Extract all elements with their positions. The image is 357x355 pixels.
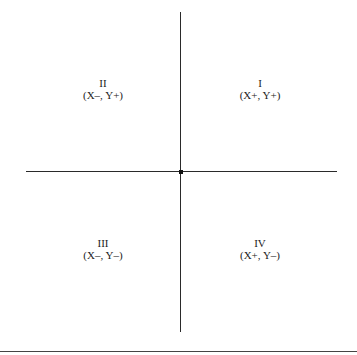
quadrant-numeral: III	[43, 237, 163, 249]
bottom-rule	[0, 351, 357, 352]
quadrant-numeral: IV	[200, 237, 320, 249]
quadrant-1-label: I (X+, Y+)	[200, 77, 320, 101]
quadrant-3-label: III (X–, Y–)	[43, 237, 163, 261]
quadrant-signs: (X–, Y+)	[43, 89, 163, 101]
quadrant-numeral: II	[43, 77, 163, 89]
quadrant-signs: (X+, Y+)	[200, 89, 320, 101]
quadrant-signs: (X+, Y–)	[200, 249, 320, 261]
quadrant-numeral: I	[200, 77, 320, 89]
quadrant-signs: (X–, Y–)	[43, 249, 163, 261]
quadrant-diagram: I (X+, Y+) II (X–, Y+) III (X–, Y–) IV (…	[0, 0, 357, 355]
quadrant-2-label: II (X–, Y+)	[43, 77, 163, 101]
origin-point	[179, 170, 183, 174]
quadrant-4-label: IV (X+, Y–)	[200, 237, 320, 261]
